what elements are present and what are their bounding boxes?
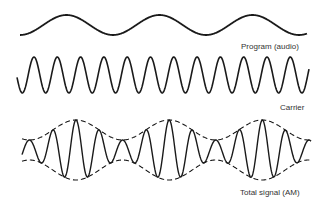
am-total-signal-wave (22, 120, 311, 177)
am-modulation-diagram: Program (audio) Carrier Total signal (AM… (0, 0, 329, 204)
program-audio-wave (20, 15, 307, 35)
waveforms (0, 0, 329, 204)
total-signal-label: Total signal (AM) (240, 188, 300, 197)
carrier-label: Carrier (280, 103, 304, 112)
carrier-wave (17, 57, 309, 93)
program-label: Program (audio) (241, 42, 299, 51)
